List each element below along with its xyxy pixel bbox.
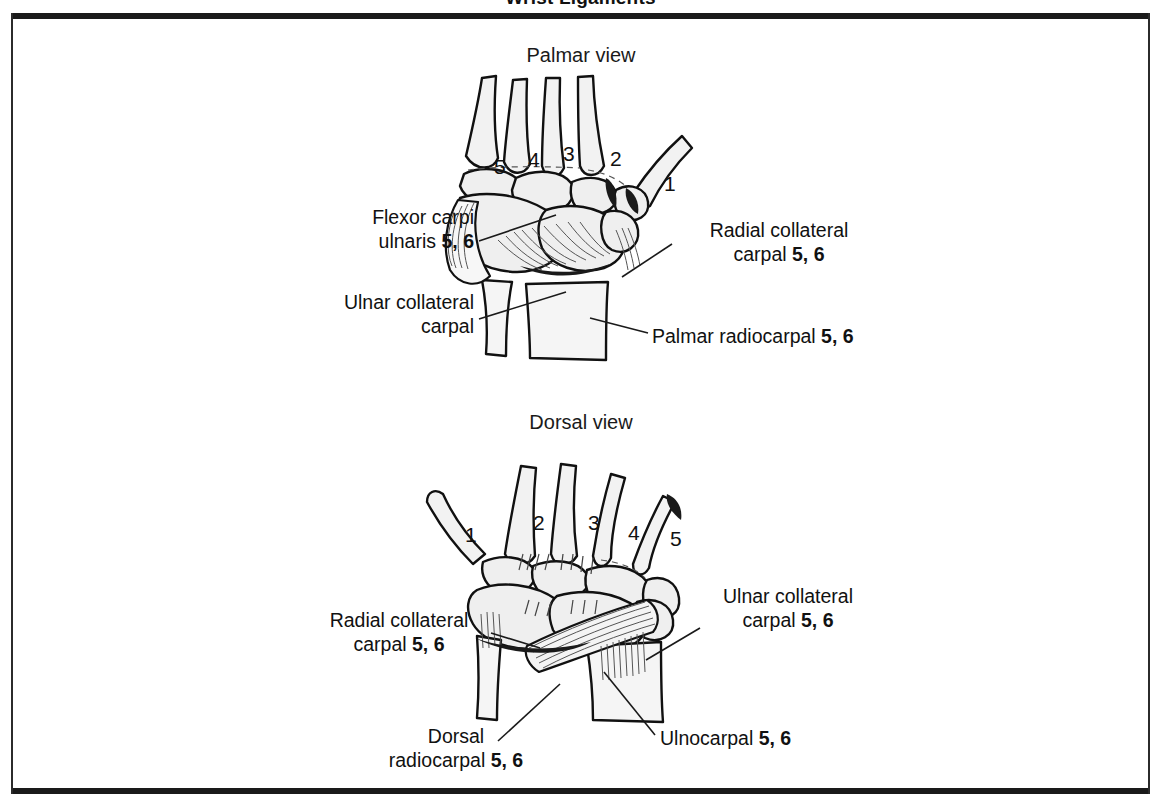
label-text: ulnaris	[379, 230, 442, 252]
label-line-1: Radial collateral	[679, 218, 879, 242]
palmar-digit-2: 2	[610, 147, 622, 171]
palmar-digit-1: 1	[664, 172, 676, 196]
label-line-2: radiocarpal 5, 6	[377, 748, 535, 772]
label-radial-collateral-carpal-palmar: Radial collateral carpal 5, 6	[679, 218, 879, 266]
label-text: carpal	[733, 243, 792, 265]
label-palmar-radiocarpal: Palmar radiocarpal 5, 6	[652, 324, 854, 348]
frame-bottom-border	[11, 788, 1150, 794]
label-ref-numbers: 5, 6	[412, 633, 445, 655]
label-line-2: carpal 5, 6	[316, 632, 482, 656]
label-line-1: Flexor carpi	[344, 205, 474, 229]
label-ref-numbers: 5, 6	[759, 727, 792, 749]
label-ref-numbers: 5, 6	[801, 609, 834, 631]
label-ref-numbers: 5, 6	[441, 230, 474, 252]
label-text: Ulnocarpal	[660, 727, 759, 749]
label-line-1: Dorsal	[377, 724, 535, 748]
label-ulnocarpal: Ulnocarpal 5, 6	[660, 726, 791, 750]
label-text: carpal	[353, 633, 412, 655]
label-text: Palmar radiocarpal	[652, 325, 821, 347]
label-line-1: Ulnar collateral	[330, 290, 474, 314]
label-flexor-carpi-ulnaris: Flexor carpi ulnaris 5, 6	[344, 205, 474, 253]
label-line-2: carpal 5, 6	[703, 608, 873, 632]
palmar-digit-3: 3	[563, 142, 575, 166]
label-ulnar-collateral-carpal-dorsal: Ulnar collateral carpal 5, 6	[703, 584, 873, 632]
label-line-2: carpal 5, 6	[679, 242, 879, 266]
dorsal-wrist-illustration	[405, 450, 735, 725]
dorsal-digit-4: 4	[628, 521, 640, 545]
dorsal-digit-2: 2	[533, 511, 545, 535]
dorsal-digit-1: 1	[465, 523, 477, 547]
label-line-1: Palmar radiocarpal 5, 6	[652, 324, 854, 348]
label-line-2: ulnaris 5, 6	[344, 229, 474, 253]
label-radial-collateral-carpal-dorsal: Radial collateral carpal 5, 6	[316, 608, 482, 656]
label-ref-numbers: 5, 6	[792, 243, 825, 265]
dorsal-view-heading: Dorsal view	[381, 411, 781, 434]
dorsal-digit-5: 5	[670, 527, 682, 551]
label-line-1: Radial collateral	[316, 608, 482, 632]
label-dorsal-radiocarpal: Dorsal radiocarpal 5, 6	[377, 724, 535, 772]
label-text: carpal	[421, 315, 474, 337]
label-line-1: Ulnar collateral	[703, 584, 873, 608]
dorsal-digit-3: 3	[588, 511, 600, 535]
palmar-digit-5: 5	[494, 155, 506, 179]
frame-left-border	[11, 13, 13, 794]
label-text: radiocarpal	[389, 749, 491, 771]
page-title: Wrist Ligaments	[0, 0, 1161, 9]
label-line-2: carpal	[330, 314, 474, 338]
figure-page: Wrist Ligaments Palmar view Dorsal view	[0, 0, 1161, 800]
frame-right-border	[1148, 13, 1150, 794]
label-text: carpal	[742, 609, 801, 631]
label-ref-numbers: 5, 6	[821, 325, 854, 347]
frame-top-border	[11, 13, 1150, 19]
label-line-1: Ulnocarpal 5, 6	[660, 726, 791, 750]
label-ref-numbers: 5, 6	[491, 749, 524, 771]
label-ulnar-collateral-carpal-palmar: Ulnar collateral carpal	[330, 290, 474, 338]
palmar-digit-4: 4	[528, 148, 540, 172]
palmar-view-heading: Palmar view	[381, 44, 781, 67]
